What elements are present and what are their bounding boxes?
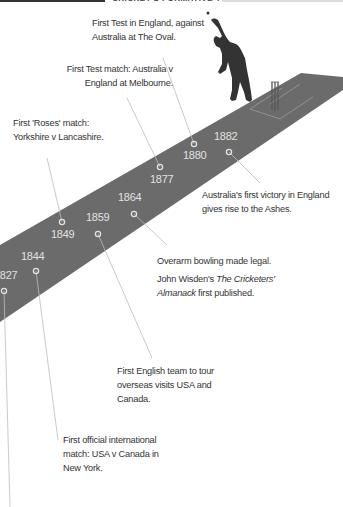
annotation-1859: First English team to tour overseas visi… — [117, 364, 217, 406]
year-label: 1827 — [0, 269, 17, 281]
annotation-1877: First Test match: Australia v England at… — [63, 62, 173, 90]
bowler-silhouette-icon — [207, 12, 253, 103]
annotation-1849: First 'Roses' match: Yorkshire v Lancash… — [13, 116, 123, 144]
year-label: 1849 — [51, 228, 74, 240]
year-label: 1859 — [86, 211, 109, 223]
annotation-1864: Overarm bowling made legal. John Wisden'… — [157, 254, 307, 300]
annotation-1882: Australia's first victory in England giv… — [202, 188, 342, 216]
year-label: 1882 — [214, 130, 237, 142]
year-label: 1877 — [150, 173, 173, 185]
year-label: 1880 — [183, 149, 206, 161]
annotation-1844: First official international match: USA … — [63, 433, 159, 475]
annotation-1880: First Test in England, against Australia… — [92, 16, 212, 44]
annotation-1864-line2: John Wisden's The Cricketers' Almanack f… — [157, 272, 279, 300]
year-label: 1844 — [21, 250, 44, 262]
year-label: 1864 — [118, 191, 141, 203]
stumps-icon — [271, 82, 279, 111]
annotation-1864-line1: Overarm bowling made legal. — [157, 254, 307, 268]
